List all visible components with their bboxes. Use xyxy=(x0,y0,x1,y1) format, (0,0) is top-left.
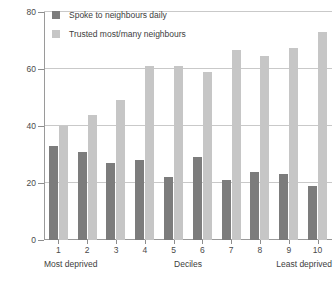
x-axis-most-deprived-label: Most deprived xyxy=(44,259,97,269)
x-axis-tick: 8 xyxy=(246,240,275,254)
x-axis-tick-mark xyxy=(260,240,261,244)
bar-group xyxy=(188,12,217,240)
bar-group xyxy=(246,12,275,240)
bar-group xyxy=(44,12,73,240)
x-axis-tick-mark xyxy=(318,240,319,244)
bar-group xyxy=(102,12,131,240)
x-axis-tick: 7 xyxy=(217,240,246,254)
bar-group xyxy=(159,12,188,240)
x-axis-tick: 9 xyxy=(274,240,303,254)
x-axis-tick-label: 1 xyxy=(56,245,61,255)
legend-item-label: Spoke to neighbours daily xyxy=(69,10,167,20)
bar xyxy=(193,157,202,240)
bar xyxy=(308,186,317,240)
bar xyxy=(174,66,183,240)
bar xyxy=(289,48,298,240)
x-axis-tick-label: 3 xyxy=(114,245,119,255)
bar xyxy=(318,32,327,240)
x-axis-tick-mark xyxy=(231,240,232,244)
x-axis-tick: 2 xyxy=(73,240,102,254)
bar xyxy=(203,72,212,240)
bar xyxy=(59,126,68,240)
x-axis-tick-mark xyxy=(174,240,175,244)
x-axis-tick-mark xyxy=(202,240,203,244)
legend-item-label: Trusted most/many neighbours xyxy=(69,29,186,39)
bar xyxy=(250,172,259,240)
y-axis-tick-label: 80 xyxy=(0,7,36,17)
bar-group xyxy=(217,12,246,240)
bar xyxy=(78,152,87,240)
x-axis-tick-mark xyxy=(289,240,290,244)
x-axis-sublabels: Most deprived Deciles Least deprived xyxy=(44,259,332,273)
bar xyxy=(49,146,58,240)
y-axis-tick-label: 60 xyxy=(0,64,36,74)
legend-item-spoke: Spoke to neighbours daily xyxy=(52,10,186,20)
x-axis-deciles-label: Deciles xyxy=(174,259,202,269)
bar-group xyxy=(274,12,303,240)
y-axis-tick-label: 40 xyxy=(0,121,36,131)
x-axis-tick-label: 5 xyxy=(171,245,176,255)
x-axis-tick-label: 4 xyxy=(142,245,147,255)
x-axis-tick-label: 9 xyxy=(286,245,291,255)
bar-group xyxy=(130,12,159,240)
bar xyxy=(222,180,231,240)
legend-swatch-icon xyxy=(52,30,60,38)
y-axis-tick-label: 0 xyxy=(0,235,36,245)
bar xyxy=(106,163,115,240)
y-axis-tick-label: 20 xyxy=(0,178,36,188)
bar xyxy=(164,177,173,240)
bar xyxy=(232,50,241,240)
bar-groups xyxy=(44,12,332,240)
x-axis-tick-mark xyxy=(58,240,59,244)
bar xyxy=(88,115,97,240)
x-axis-ticks: 12345678910 xyxy=(44,240,332,254)
x-axis-tick: 6 xyxy=(188,240,217,254)
x-axis-tick-mark xyxy=(116,240,117,244)
bar-group xyxy=(73,12,102,240)
legend-item-trusted: Trusted most/many neighbours xyxy=(52,29,186,39)
legend-swatch-icon xyxy=(52,11,60,19)
x-axis-tick: 10 xyxy=(303,240,332,254)
x-axis-tick-label: 10 xyxy=(313,245,322,255)
bar-chart: 020406080 12345678910 Most deprived Deci… xyxy=(0,0,336,281)
bar xyxy=(135,160,144,240)
x-axis-tick-mark xyxy=(145,240,146,244)
x-axis-tick: 5 xyxy=(159,240,188,254)
bar xyxy=(145,66,154,240)
x-axis-tick-label: 2 xyxy=(85,245,90,255)
x-axis-tick: 3 xyxy=(102,240,131,254)
x-axis-tick: 4 xyxy=(130,240,159,254)
x-axis-least-deprived-label: Least deprived xyxy=(276,259,332,269)
x-axis-tick: 1 xyxy=(44,240,73,254)
x-axis-tick-label: 8 xyxy=(258,245,263,255)
bar xyxy=(279,174,288,240)
chart-legend: Spoke to neighbours daily Trusted most/m… xyxy=(52,10,186,39)
x-axis-tick-label: 7 xyxy=(229,245,234,255)
plot-area xyxy=(44,12,332,240)
bar xyxy=(260,56,269,240)
x-axis-tick-label: 6 xyxy=(200,245,205,255)
bar-group xyxy=(303,12,332,240)
x-axis-tick-mark xyxy=(87,240,88,244)
bar xyxy=(116,100,125,240)
